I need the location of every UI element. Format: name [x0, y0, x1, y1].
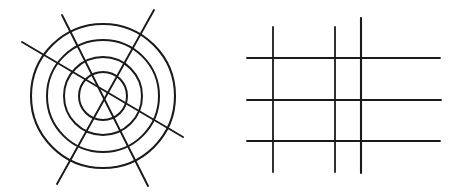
- figure-svg: [0, 0, 461, 195]
- figure-canvas: [0, 0, 461, 195]
